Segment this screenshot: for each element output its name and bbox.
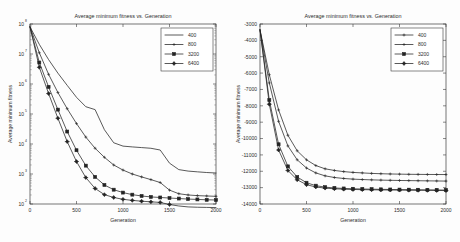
- y-tick-label: 10: [18, 141, 24, 147]
- y-tick-label: 10: [18, 201, 24, 207]
- legend-label: 400: [188, 32, 197, 38]
- y-tick-exponent: 7: [25, 49, 27, 53]
- legend-label: 800: [188, 41, 197, 47]
- x-tick-label: 0: [29, 207, 32, 213]
- x-tick-label: 1000: [117, 207, 128, 213]
- series-marker: [56, 108, 59, 111]
- y-tick-exponent: 2: [25, 199, 27, 203]
- y-tick-label: -9000: [244, 119, 257, 125]
- legend-label: 6400: [418, 60, 429, 66]
- series-marker: [149, 195, 152, 198]
- chart-right-svg: Average minimum fitness vs. Generation05…: [230, 0, 460, 242]
- series-marker: [268, 99, 271, 102]
- x-tick-label: 1000: [347, 207, 358, 213]
- legend-label: 3200: [188, 51, 199, 57]
- y-tick-exponent: 5: [25, 109, 27, 113]
- series-marker: [94, 175, 97, 178]
- y-tick-exponent: 3: [25, 169, 27, 173]
- x-tick-label: 2000: [440, 207, 451, 213]
- x-tick-label: 500: [72, 207, 81, 213]
- y-tick-label: -6000: [244, 70, 257, 76]
- y-tick-label: 10: [18, 51, 24, 57]
- series-marker: [159, 196, 162, 199]
- series-marker: [112, 188, 115, 191]
- y-tick-label: -14000: [241, 201, 257, 207]
- series-marker: [403, 53, 406, 56]
- chart-title: Average minimum fitness vs. Generation: [305, 13, 402, 19]
- x-tick-label: 0: [259, 207, 262, 213]
- legend-label: 400: [418, 32, 427, 38]
- y-tick-label: -5000: [244, 54, 257, 60]
- series-marker: [84, 164, 87, 167]
- y-tick-exponent: 4: [25, 139, 27, 143]
- series-marker: [187, 198, 190, 201]
- y-tick-label: -13000: [241, 184, 257, 190]
- x-axis-label: Generation: [340, 217, 366, 223]
- y-tick-label: 10: [18, 21, 24, 27]
- y-tick-label: -3000: [244, 21, 257, 27]
- x-tick-label: 1500: [164, 207, 175, 213]
- y-tick-label: -10000: [241, 135, 257, 141]
- y-axis-label: Average minimum fitness: [7, 85, 13, 144]
- chart-panel-log-scale: Average minimum fitness vs. Generation05…: [0, 0, 230, 242]
- series-marker: [196, 198, 199, 201]
- legend: [391, 28, 443, 71]
- y-tick-exponent: 6: [25, 79, 27, 83]
- y-tick-label: -8000: [244, 103, 257, 109]
- figure-page: Average minimum fitness vs. Generation05…: [0, 0, 460, 242]
- series-marker: [103, 183, 106, 186]
- x-tick-label: 500: [302, 207, 311, 213]
- y-tick-label: 10: [18, 111, 24, 117]
- series-marker: [75, 149, 78, 152]
- series-marker: [168, 197, 171, 200]
- series-marker: [140, 194, 143, 197]
- series-marker: [66, 130, 69, 133]
- legend-label: 800: [418, 41, 427, 47]
- series-marker: [173, 53, 176, 56]
- x-tick-label: 1500: [394, 207, 405, 213]
- series-marker: [122, 191, 125, 194]
- y-tick-label: -7000: [244, 86, 257, 92]
- x-axis-label: Generation: [110, 217, 136, 223]
- chart-panel-linear-scale: Average minimum fitness vs. Generation05…: [230, 0, 460, 242]
- y-tick-exponent: 8: [25, 19, 27, 23]
- legend: [161, 28, 213, 71]
- y-axis-label: Average minimum fitness: [235, 85, 241, 144]
- y-tick-label: -11000: [242, 152, 257, 158]
- chart-left-svg: Average minimum fitness vs. Generation05…: [0, 0, 230, 242]
- y-tick-label: -4000: [244, 37, 257, 43]
- series-marker: [215, 198, 218, 201]
- legend-label: 6400: [188, 60, 199, 66]
- series-marker: [177, 197, 180, 200]
- chart-title: Average minimum fitness vs. Generation: [75, 13, 172, 19]
- series-marker: [47, 85, 50, 88]
- y-tick-label: 10: [18, 171, 24, 177]
- series-marker: [131, 193, 134, 196]
- legend-label: 3200: [418, 51, 429, 57]
- y-tick-label: -12000: [241, 168, 257, 174]
- series-marker: [205, 198, 208, 201]
- y-tick-label: 10: [18, 81, 24, 87]
